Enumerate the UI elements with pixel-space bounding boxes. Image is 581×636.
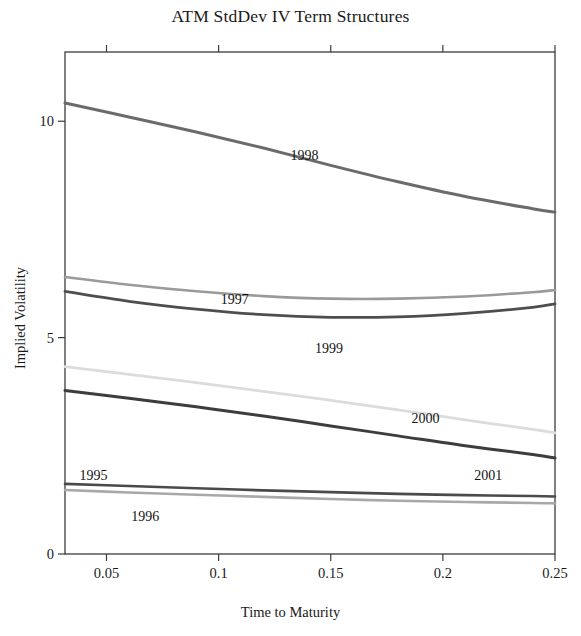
y-tick-label: 10 bbox=[40, 113, 55, 129]
x-tick-label: 0.05 bbox=[94, 565, 119, 581]
series-label-2000: 2000 bbox=[411, 411, 439, 426]
series-label-2001: 2001 bbox=[474, 468, 502, 483]
chart-plot-area: 0.050.10.150.20.250510199519961997199819… bbox=[0, 0, 581, 636]
x-tick-label: 0.15 bbox=[318, 565, 343, 581]
x-tick-label: 0.2 bbox=[434, 565, 452, 581]
series-line-1997 bbox=[65, 277, 555, 299]
series-label-1996: 1996 bbox=[131, 509, 159, 524]
x-tick-label: 0.1 bbox=[210, 565, 228, 581]
y-tick-label: 5 bbox=[47, 330, 54, 346]
chart-container: ATM StdDev IV Term Structures Implied Vo… bbox=[0, 0, 581, 636]
series-line-2001 bbox=[65, 390, 555, 458]
series-label-1999: 1999 bbox=[315, 341, 343, 356]
series-label-1997: 1997 bbox=[221, 292, 249, 307]
y-tick-label: 0 bbox=[47, 546, 54, 562]
series-label-1995: 1995 bbox=[80, 468, 108, 483]
x-tick-label: 0.25 bbox=[542, 565, 567, 581]
series-line-1995 bbox=[65, 484, 555, 497]
x-axis-title: Time to Maturity bbox=[0, 604, 581, 621]
series-label-1998: 1998 bbox=[290, 148, 318, 163]
